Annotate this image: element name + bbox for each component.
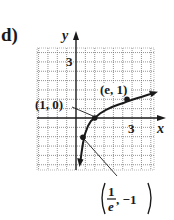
curve-arrow-right-icon bbox=[149, 91, 158, 97]
curve-arrow-down-icon bbox=[77, 158, 83, 167]
label-1e-neg1: 1 e , −1 bbox=[102, 183, 151, 214]
svg-text:, −1: , −1 bbox=[116, 192, 136, 207]
svg-text:e: e bbox=[108, 199, 114, 214]
svg-text:1: 1 bbox=[108, 184, 115, 199]
y-axis-label: y bbox=[60, 28, 69, 43]
graph: y x 3 3 (1, 0) (e, 1) 1 e , −1 bbox=[0, 0, 174, 220]
leader-1e-neg1 bbox=[84, 139, 117, 176]
label-e-1: (e, 1) bbox=[100, 82, 127, 97]
point-e-1 bbox=[124, 97, 130, 103]
point-1e-neg1 bbox=[80, 135, 86, 141]
y-tick-3: 3 bbox=[66, 54, 73, 69]
x-axis-label: x bbox=[156, 121, 164, 136]
label-1-0: (1, 0) bbox=[35, 97, 63, 112]
y-axis-arrow-icon bbox=[73, 31, 79, 40]
x-tick-3: 3 bbox=[128, 121, 135, 136]
